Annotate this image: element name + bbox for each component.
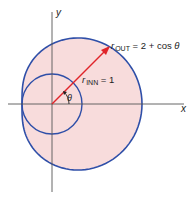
y-axis-label: y (55, 7, 62, 18)
polar-region-diagram: y x θ rOUT = 2 + cos θ rINN = 1 (0, 0, 196, 206)
angle-label: θ (67, 93, 72, 103)
outer-curve-label: rOUT = 2 + cos θ (111, 40, 180, 52)
x-axis-label: x (180, 103, 187, 114)
